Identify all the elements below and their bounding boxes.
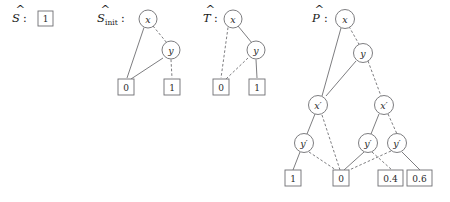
leaf-label: 1 — [254, 83, 260, 93]
node-label-y: y — [359, 48, 366, 59]
group-s-hat: S ^ : 1 — [12, 2, 53, 26]
group-colon-s-init: : — [121, 12, 125, 25]
edge-x-to-0 — [221, 28, 228, 79]
node-label-x-prime: x′ — [314, 100, 322, 111]
leaf-label: 0 — [338, 174, 344, 184]
node-label-x: x — [230, 14, 236, 25]
edge-x-to-xp-left — [322, 28, 341, 96]
edge-y-to-0 — [226, 58, 248, 79]
edge-xp-left-to-yp-left — [307, 114, 315, 134]
edge-yp-right-to-06 — [402, 152, 420, 170]
node-label-x: x — [145, 14, 151, 25]
group-s-init: S ^ init : x y 0 1 — [97, 2, 180, 95]
edge-y-to-0 — [131, 58, 163, 79]
node-label-y: y — [167, 45, 174, 56]
edge-xp-right-to-yp-right — [388, 114, 397, 134]
group-subscript-s-init: init — [105, 18, 118, 27]
diagram-canvas: S ^ : 1 S ^ init : x y — [0, 0, 450, 202]
node-label-x: x — [342, 14, 348, 25]
leaf-label: 0 — [218, 83, 224, 93]
edge-x-to-y — [153, 26, 167, 43]
hat-accent-s-init: ^ — [101, 2, 111, 16]
edge-yp-mid-to-0 — [344, 152, 364, 170]
edge-y-to-1 — [171, 60, 172, 79]
edge-x-to-y — [349, 27, 360, 47]
node-label-y-prime: y′ — [363, 138, 372, 149]
edge-x-to-y — [238, 26, 252, 43]
leaf-label: 1 — [43, 14, 49, 24]
leaf-label: 0 — [123, 83, 129, 93]
leaf-label: 0.6 — [412, 174, 427, 184]
edge-xp-right-to-yp-mid — [371, 114, 379, 134]
group-t-hat: T ^ : x y 0 1 — [203, 2, 265, 95]
node-label-y-prime: y′ — [299, 138, 308, 149]
edge-yp-left-to-1 — [293, 152, 300, 170]
edge-y-to-xp-right — [368, 61, 381, 96]
diagram-svg: S ^ : 1 S ^ init : x y — [0, 0, 450, 202]
leaf-label: 0.4 — [383, 174, 398, 184]
group-p-hat: P ^ : — [285, 2, 432, 186]
edge-xp-left-to-0 — [322, 115, 340, 170]
leaf-label: 1 — [290, 174, 296, 184]
hat-accent-p: ^ — [315, 2, 325, 16]
edge-y-to-1 — [256, 60, 257, 79]
node-label-y-prime: y′ — [392, 138, 401, 149]
node-label-x-prime: x′ — [380, 100, 388, 111]
group-colon-s: : — [23, 12, 27, 25]
leaf-label: 1 — [169, 83, 175, 93]
edge-yp-left-to-0 — [309, 152, 336, 170]
edge-x-to-0 — [127, 28, 144, 79]
group-colon-p: : — [324, 12, 328, 25]
group-colon-t: : — [214, 12, 218, 25]
node-label-y: y — [252, 45, 259, 56]
